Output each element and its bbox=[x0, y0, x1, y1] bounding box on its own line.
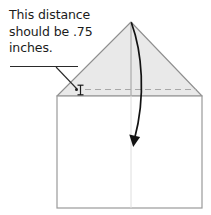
leader-endpoint-dot bbox=[75, 88, 78, 91]
paper-body-rectangle bbox=[57, 96, 202, 208]
distance-annotation-text: This distance should be .75 inches. bbox=[9, 7, 114, 57]
diagram-canvas: This distance should be .75 inches. bbox=[0, 0, 211, 215]
annotation-leader-line bbox=[56, 67, 77, 89]
